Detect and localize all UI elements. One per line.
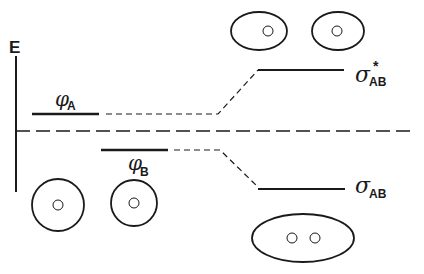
orbital-phi-a: φ A	[32, 87, 99, 114]
mo-diagram: E φ A φ B σ AB * σ AB	[0, 0, 424, 274]
orbital-sigma: σ AB	[258, 173, 387, 201]
sigma-star-superscript: *	[373, 58, 379, 74]
antibonding-orbital-picture	[231, 12, 364, 50]
sigma-subscript: AB	[369, 187, 387, 201]
phi-a-subscript: A	[67, 99, 76, 113]
energy-axis-label: E	[9, 38, 20, 57]
correlation-line-b	[174, 150, 258, 187]
orbital-phi-b: φ B	[101, 150, 168, 179]
atom-a-orbital-picture	[32, 179, 84, 231]
sigma-star-subscript: AB	[369, 75, 387, 89]
orbital-sigma-star: σ AB *	[258, 58, 387, 89]
bonding-orbital-picture	[252, 214, 354, 262]
energy-axis: E	[9, 38, 20, 192]
atom-b-orbital-picture	[111, 180, 157, 226]
phi-b-subscript: B	[140, 165, 149, 179]
correlation-line-a	[106, 70, 258, 114]
